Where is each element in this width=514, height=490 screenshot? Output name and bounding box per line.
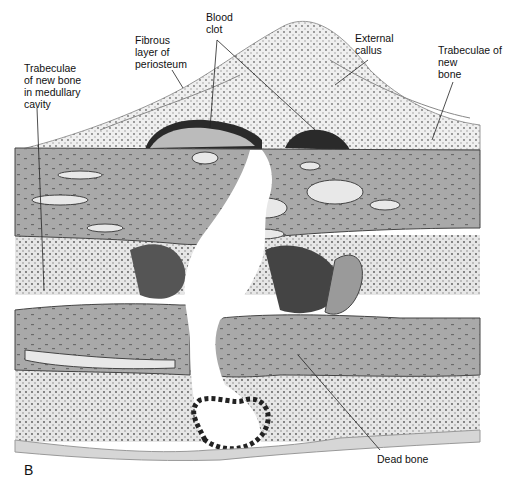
label-trabeculae-medullary: Trabeculae of new bone in medullary cavi…	[24, 62, 81, 110]
label-dead-bone: Dead bone	[377, 453, 428, 465]
label-blood-clot: Blood clot	[206, 11, 233, 35]
label-external-callus: External callus	[355, 32, 394, 56]
panel-letter: B	[24, 462, 33, 478]
label-trabeculae-new-bone: Trabeculae of new bone	[438, 44, 502, 80]
label-fibrous-periosteum: Fibrous layer of periosteum	[135, 34, 187, 70]
